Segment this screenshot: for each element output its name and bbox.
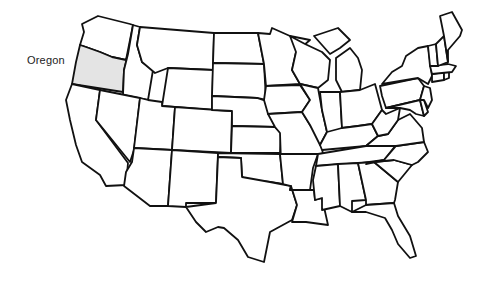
state-florida[interactable] [352, 203, 416, 258]
state-north-dakota[interactable] [213, 33, 264, 64]
state-kansas[interactable] [231, 126, 281, 153]
us-map [0, 0, 483, 281]
state-new-mexico[interactable] [168, 150, 218, 207]
state-colorado[interactable] [172, 107, 232, 153]
state-new-york[interactable] [382, 46, 432, 84]
state-utah[interactable] [134, 98, 175, 150]
state-arkansas[interactable] [280, 154, 318, 190]
oregon-label: Oregon [27, 54, 65, 66]
state-wyoming[interactable] [162, 68, 213, 110]
state-south-dakota[interactable] [212, 63, 266, 100]
state-montana[interactable] [137, 27, 214, 73]
